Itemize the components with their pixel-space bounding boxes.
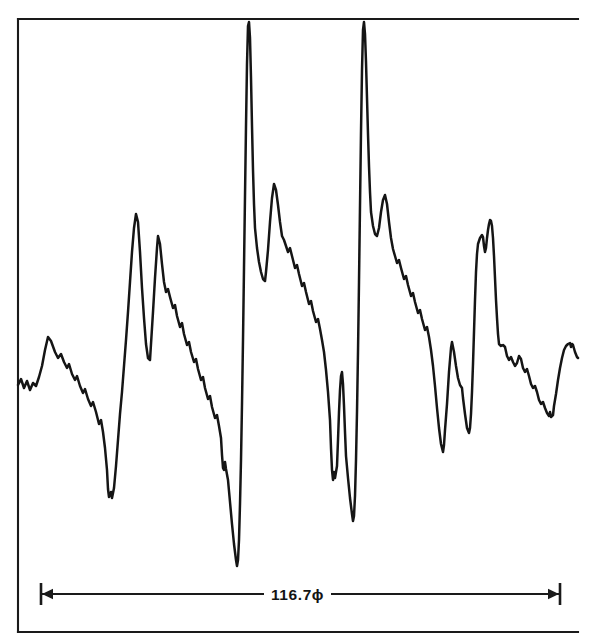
dimension-arrow [41, 583, 560, 605]
chart-canvas [0, 0, 595, 644]
figure-root: 116.7ϕ [0, 0, 595, 644]
arrowhead-left-icon [42, 589, 53, 599]
arrowhead-right-icon [548, 589, 559, 599]
waveform-trace [18, 22, 578, 566]
